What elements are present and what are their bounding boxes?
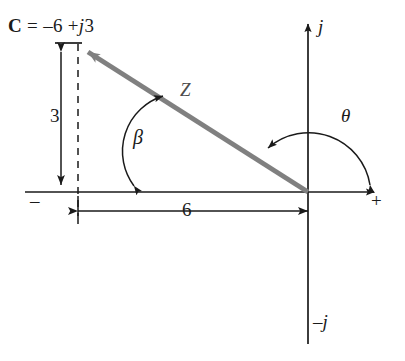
imaginary-axis-negative-label: –j (313, 312, 328, 331)
real-axis-negative-label: – (30, 191, 40, 210)
expression-real-part: –6 (43, 15, 63, 36)
angle-beta-label: β (133, 127, 143, 147)
imaginary-axis-positive-label: j (318, 17, 323, 36)
angle-theta-label: θ (341, 106, 350, 125)
vector-z-line (88, 52, 308, 192)
expression-symbol: C (8, 15, 22, 36)
expression-imaginary-value: 3 (84, 15, 94, 36)
vector-z-label: Z (180, 80, 191, 99)
expression-plus: + (68, 15, 79, 36)
phasor-diagram-figure: C = –6 +j3 Z β θ j –j 3 6 – + (0, 0, 405, 361)
dimension-3-label: 3 (50, 106, 60, 125)
expression-equals: = (27, 15, 38, 36)
real-axis-positive-label: + (371, 191, 382, 210)
dimension-6-label: 6 (182, 200, 192, 219)
diagram-canvas (0, 0, 405, 361)
complex-number-expression: C = –6 +j3 (8, 16, 94, 35)
